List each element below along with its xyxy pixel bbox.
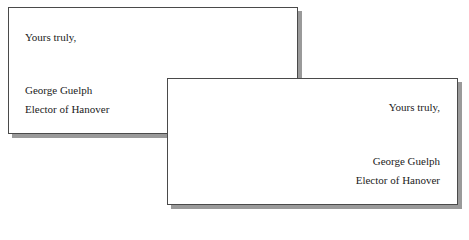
signer-name: George Guelph bbox=[25, 84, 92, 97]
closing-salutation: Yours truly, bbox=[389, 101, 440, 114]
signer-title: Elector of Hanover bbox=[25, 103, 109, 116]
signature-card-right-aligned: Yours truly, George Guelph Elector of Ha… bbox=[167, 78, 458, 205]
closing-salutation: Yours truly, bbox=[25, 31, 76, 44]
signer-title: Elector of Hanover bbox=[356, 174, 440, 187]
signer-name: George Guelph bbox=[373, 155, 440, 168]
